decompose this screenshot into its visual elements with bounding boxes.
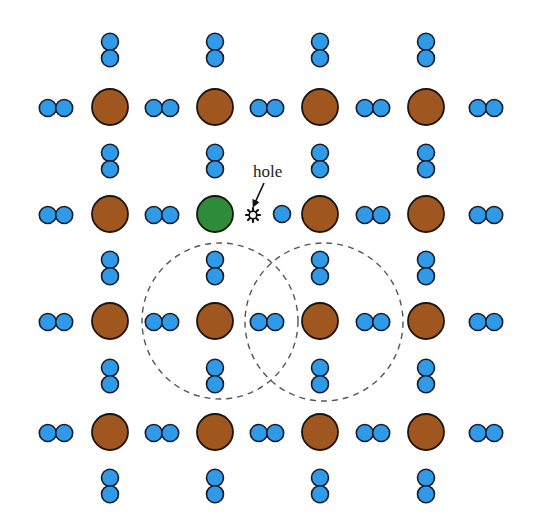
electron-icon <box>312 251 329 268</box>
host-atom-icon <box>408 196 444 232</box>
electron-icon <box>39 207 56 224</box>
hole-icon <box>246 208 260 222</box>
electron-icon <box>418 376 435 393</box>
electron-icon <box>145 425 162 442</box>
electron-icon <box>56 425 73 442</box>
host-atom-icon <box>92 303 128 339</box>
electron-icon <box>145 100 162 117</box>
electron-icon <box>102 161 119 178</box>
electron-icon <box>39 425 56 442</box>
electron-icon <box>312 376 329 393</box>
electron-icon <box>356 425 373 442</box>
electron-icon <box>102 359 119 376</box>
electron-icon <box>373 425 390 442</box>
electron-icon <box>418 33 435 50</box>
electron-icon <box>373 100 390 117</box>
electron-icon <box>145 314 162 331</box>
electron-icon <box>486 100 503 117</box>
electron-icon <box>486 425 503 442</box>
electron-icon <box>102 50 119 67</box>
electron-icon <box>207 486 224 503</box>
electron-icon <box>274 206 291 223</box>
electron-icon <box>162 314 179 331</box>
electron-icon <box>162 100 179 117</box>
electron-icon <box>486 207 503 224</box>
host-atom-icon <box>92 196 128 232</box>
electron-icon <box>162 425 179 442</box>
electron-icon <box>207 359 224 376</box>
host-atom-icon <box>197 303 233 339</box>
electron-icon <box>312 33 329 50</box>
electron-icon <box>312 268 329 285</box>
electron-icon <box>373 207 390 224</box>
host-atom-icon <box>302 89 338 125</box>
host-atom-icon <box>302 414 338 450</box>
electron-icon <box>373 314 390 331</box>
electron-icon <box>207 268 224 285</box>
electron-icon <box>356 207 373 224</box>
electron-icon <box>39 314 56 331</box>
electron-icon <box>56 100 73 117</box>
electron-icon <box>356 100 373 117</box>
electron-icon <box>418 486 435 503</box>
electron-icon <box>250 314 267 331</box>
electron-icon <box>312 161 329 178</box>
electron-icon <box>250 425 267 442</box>
electron-icon <box>469 314 486 331</box>
electron-icon <box>207 251 224 268</box>
host-atom-icon <box>302 196 338 232</box>
electron-icon <box>102 469 119 486</box>
host-atom-icon <box>408 414 444 450</box>
electron-icon <box>56 207 73 224</box>
electron-icon <box>486 314 503 331</box>
electron-icon <box>39 100 56 117</box>
electron-icon <box>207 33 224 50</box>
electron-icon <box>418 144 435 161</box>
electron-icon <box>102 144 119 161</box>
host-atom-icon <box>302 303 338 339</box>
electron-icon <box>207 144 224 161</box>
host-atom-icon <box>92 89 128 125</box>
host-atom-icon <box>197 414 233 450</box>
electron-icon <box>418 469 435 486</box>
electron-icon <box>56 314 73 331</box>
electron-icon <box>356 314 373 331</box>
acceptor-atom-icon <box>197 196 233 232</box>
electron-icon <box>162 207 179 224</box>
electron-icon <box>418 161 435 178</box>
hole-label: hole <box>253 162 282 181</box>
hole-arrow-icon <box>254 183 264 205</box>
electron-icon <box>207 50 224 67</box>
electron-icon <box>102 251 119 268</box>
electron-icon <box>469 425 486 442</box>
host-atom-icon <box>197 89 233 125</box>
lattice-diagram: hole <box>0 0 533 526</box>
host-atom-icon <box>408 303 444 339</box>
electron-icon <box>418 268 435 285</box>
electron-icon <box>312 144 329 161</box>
electron-icon <box>312 469 329 486</box>
atom-group <box>92 89 444 450</box>
electron-icon <box>207 469 224 486</box>
electron-icon <box>418 50 435 67</box>
electron-icon <box>312 486 329 503</box>
electron-icon <box>469 207 486 224</box>
electron-icon <box>102 268 119 285</box>
electron-icon <box>418 251 435 268</box>
electron-icon <box>207 161 224 178</box>
electron-icon <box>250 100 267 117</box>
electron-icon <box>102 376 119 393</box>
electron-icon <box>267 100 284 117</box>
electron-icon <box>267 314 284 331</box>
host-atom-icon <box>92 414 128 450</box>
electron-icon <box>145 207 162 224</box>
electron-icon <box>102 486 119 503</box>
electron-icon <box>418 359 435 376</box>
electron-icon <box>102 33 119 50</box>
host-atom-icon <box>408 89 444 125</box>
electron-icon <box>312 359 329 376</box>
electron-icon <box>469 100 486 117</box>
electron-icon <box>207 376 224 393</box>
electron-icon <box>267 425 284 442</box>
electron-icon <box>312 50 329 67</box>
